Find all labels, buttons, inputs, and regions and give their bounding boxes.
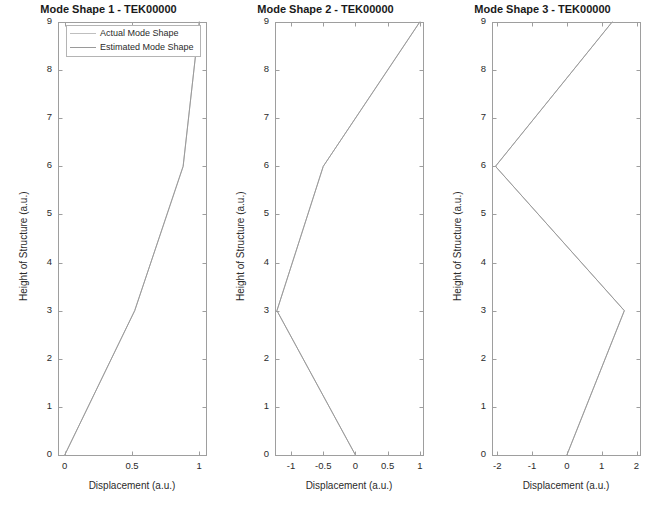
x-tick-label: -1 (273, 460, 309, 471)
y-axis-label: Height of Structure (a.u.) (18, 191, 29, 301)
y-axis-label: Height of Structure (a.u.) (452, 191, 463, 301)
matlab-figure: Mode Shape 1 - TEK00000 Actual Mode Shap… (0, 0, 651, 508)
plot-frame (493, 23, 641, 456)
legend-line-estimated-icon (70, 47, 96, 48)
y-tick-label: 6 (26, 159, 52, 170)
y-tick-label: 3 (460, 304, 486, 315)
y-axis-label: Height of Structure (a.u.) (235, 191, 246, 301)
subplot-mode-shape-1: Mode Shape 1 - TEK00000 Actual Mode Shap… (0, 0, 217, 508)
y-tick-label: 5 (26, 207, 52, 218)
y-tick-label: 3 (243, 304, 269, 315)
x-axis-label: Displacement (a.u.) (275, 480, 423, 491)
y-tick-label: 6 (460, 159, 486, 170)
x-tick-label: 0 (47, 460, 83, 471)
plot-frame (276, 23, 424, 456)
y-tick-label: 6 (243, 159, 269, 170)
x-tick-label: 1 (402, 460, 438, 471)
y-tick-label: 8 (26, 63, 52, 74)
data-series-line (277, 22, 420, 455)
y-tick-label: 7 (243, 111, 269, 122)
y-tick-label: 4 (460, 256, 486, 267)
y-tick-label: 2 (26, 352, 52, 363)
x-tick-label: -1 (514, 460, 550, 471)
x-tick-label: -2 (479, 460, 515, 471)
y-tick-label: 2 (460, 352, 486, 363)
x-tick-label: 2 (619, 460, 651, 471)
x-axis-label: Displacement (a.u.) (58, 480, 206, 491)
y-tick-label: 8 (243, 63, 269, 74)
y-tick-label: 9 (460, 15, 486, 26)
data-series-line (65, 22, 200, 455)
y-tick-label: 5 (243, 207, 269, 218)
x-tick-label: 1 (584, 460, 620, 471)
x-tick-label: 0.5 (370, 460, 406, 471)
y-tick-label: 5 (460, 207, 486, 218)
data-series-line (495, 22, 624, 455)
subplot-1-axes (0, 0, 217, 508)
y-tick-label: 8 (460, 63, 486, 74)
y-tick-label: 4 (243, 256, 269, 267)
legend-label-estimated: Estimated Mode Shape (100, 42, 194, 52)
x-tick-label: 0.5 (114, 460, 150, 471)
x-tick-label: 1 (181, 460, 217, 471)
y-tick-label: 9 (243, 15, 269, 26)
legend-item-actual: Actual Mode Shape (67, 26, 200, 40)
x-axis-label: Displacement (a.u.) (492, 480, 640, 491)
y-tick-label: 0 (26, 448, 52, 459)
y-tick-label: 0 (243, 448, 269, 459)
data-series-line (277, 22, 420, 455)
y-tick-label: 1 (243, 400, 269, 411)
y-tick-label: 1 (460, 400, 486, 411)
y-tick-label: 4 (26, 256, 52, 267)
y-tick-label: 7 (26, 111, 52, 122)
y-tick-label: 9 (26, 15, 52, 26)
y-tick-label: 7 (460, 111, 486, 122)
x-tick-label: -0.5 (305, 460, 341, 471)
y-tick-label: 2 (243, 352, 269, 363)
plot-frame (59, 23, 207, 456)
subplot-2-axes (217, 0, 434, 508)
y-tick-label: 1 (26, 400, 52, 411)
subplot-mode-shape-2: Mode Shape 2 - TEK00000 0123456789-1-0.5… (217, 0, 434, 508)
subplot-mode-shape-3: Mode Shape 3 - TEK00000 0123456789-2-101… (434, 0, 651, 508)
legend-label-actual: Actual Mode Shape (100, 28, 179, 38)
y-tick-label: 0 (460, 448, 486, 459)
x-tick-label: 0 (549, 460, 585, 471)
data-series-line (65, 22, 200, 455)
y-tick-label: 3 (26, 304, 52, 315)
legend-line-actual-icon (70, 33, 96, 34)
subplot-3-axes (434, 0, 651, 508)
legend: Actual Mode Shape Estimated Mode Shape (66, 25, 201, 57)
x-tick-label: 0 (337, 460, 373, 471)
legend-item-estimated: Estimated Mode Shape (67, 40, 200, 54)
